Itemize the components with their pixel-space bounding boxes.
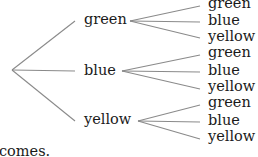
branch-yellow-blue [138,121,200,122]
branch-blue-green [122,55,200,71]
branch-green-yellow [130,21,200,38]
branch-green-green [130,6,200,21]
level1-label-green: green [84,12,127,27]
leaf-green-green: green [208,0,251,11]
leaf-green-blue: blue [208,13,240,28]
branch-blue-yellow [122,71,200,89]
branch-root-green [12,21,75,70]
level1-label-yellow: yellow [84,112,131,127]
leaf-green-yellow: yellow [208,29,255,44]
branch-yellow-yellow [138,121,200,139]
leaf-blue-yellow: yellow [208,79,255,94]
leaf-blue-blue: blue [208,63,240,78]
level1-label-blue: blue [84,63,116,78]
leaf-yellow-blue: blue [208,113,240,128]
leaf-blue-green: green [208,45,251,60]
branch-yellow-green [138,105,200,121]
branch-root-yellow [12,70,75,121]
branch-green-blue [130,21,200,22]
branch-root-blue [12,70,75,71]
leaf-yellow-yellow: yellow [208,129,255,144]
leaf-yellow-green: green [208,95,251,110]
branch-blue-blue [122,71,200,72]
caption-text: comes. [0,144,50,157]
